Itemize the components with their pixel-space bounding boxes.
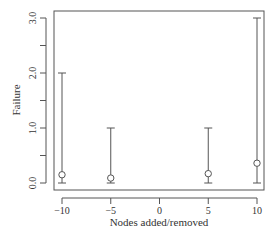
x-tick-label: 5 bbox=[206, 205, 211, 216]
error-bar-chart: 0.01.02.03.0 −10−50510 Nodes added/remov… bbox=[0, 0, 278, 240]
data-point-marker bbox=[59, 172, 65, 178]
plot-box bbox=[54, 11, 264, 190]
data-series bbox=[58, 18, 261, 183]
data-point-marker bbox=[254, 160, 260, 166]
error-bar-point bbox=[107, 128, 115, 183]
x-tick-label: −10 bbox=[54, 205, 70, 216]
y-tick-label: 0.0 bbox=[27, 177, 38, 190]
error-bar-point bbox=[253, 18, 261, 183]
x-axis: −10−50510 bbox=[54, 198, 262, 216]
error-bar-point bbox=[58, 73, 66, 183]
y-tick-label: 2.0 bbox=[27, 67, 38, 80]
y-tick-label: 3.0 bbox=[27, 12, 38, 25]
error-bar-point bbox=[204, 128, 212, 183]
x-tick-label: −5 bbox=[105, 205, 116, 216]
data-point-marker bbox=[205, 170, 211, 176]
y-tick-label: 1.0 bbox=[27, 122, 38, 135]
data-point-marker bbox=[108, 175, 114, 181]
x-axis-label: Nodes added/removed bbox=[110, 216, 209, 228]
y-axis: 0.01.02.03.0 bbox=[27, 12, 46, 190]
x-tick-label: 0 bbox=[157, 205, 162, 216]
x-tick-label: 10 bbox=[252, 205, 262, 216]
y-axis-label: Failure bbox=[10, 84, 22, 115]
